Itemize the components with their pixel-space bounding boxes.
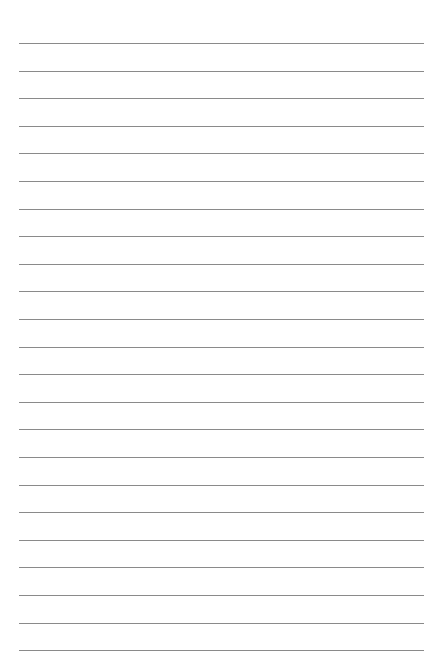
ruled-line [19,264,424,265]
ruled-line [19,347,424,348]
ruled-line [19,291,424,292]
ruled-line [19,540,424,541]
ruled-line [19,71,424,72]
ruled-line [19,319,424,320]
ruled-line [19,595,424,596]
ruled-line [19,98,424,99]
ruled-line [19,512,424,513]
ruled-line [19,374,424,375]
ruled-line [19,236,424,237]
ruled-line [19,567,424,568]
ruled-line [19,126,424,127]
ruled-line [19,43,424,44]
ruled-line [19,485,424,486]
ruled-line [19,209,424,210]
ruled-line [19,181,424,182]
ruled-line [19,623,424,624]
ruled-line [19,153,424,154]
ruled-line [19,457,424,458]
ruled-line [19,402,424,403]
ruled-line [19,429,424,430]
ruled-line [19,650,424,651]
